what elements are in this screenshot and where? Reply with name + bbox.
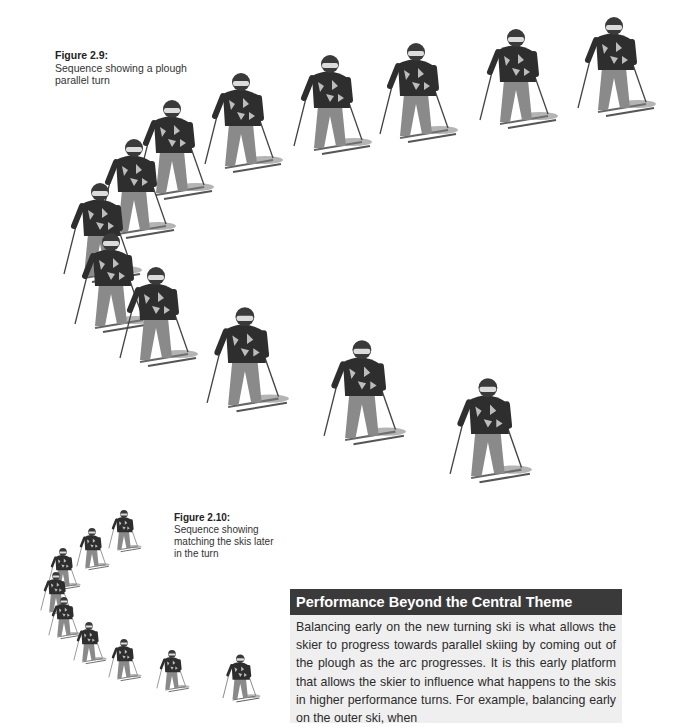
skier-photo bbox=[322, 335, 406, 451]
figure-2-10-caption: Figure 2.10: Sequence showing matching t… bbox=[174, 512, 274, 560]
figure-description: Sequence showing matching the skis later… bbox=[174, 524, 274, 560]
performance-sidebar-box: Performance Beyond the Central Theme Bal… bbox=[290, 589, 622, 723]
figure-label: Figure 2.10: bbox=[174, 512, 274, 524]
skier-photo bbox=[292, 50, 372, 160]
figure-label: Figure 2.9: bbox=[55, 49, 215, 62]
sidebar-body-text: Balancing early on the new turning ski i… bbox=[290, 615, 622, 727]
skier-photo bbox=[448, 373, 532, 489]
skier-photo bbox=[478, 24, 558, 134]
skier-photo bbox=[222, 652, 260, 705]
figure-2-9-caption: Figure 2.9: Sequence showing a plough pa… bbox=[55, 49, 215, 87]
skier-photo bbox=[576, 12, 656, 122]
skier-photo bbox=[205, 302, 289, 418]
skier-photo bbox=[203, 68, 283, 178]
skier-photo bbox=[76, 526, 110, 572]
skier-photo bbox=[156, 648, 190, 694]
skier-photo bbox=[73, 620, 107, 666]
skier-photo bbox=[108, 637, 142, 683]
skier-photo bbox=[378, 38, 458, 148]
skier-photo bbox=[108, 508, 142, 554]
figure-description: Sequence showing a plough parallel turn bbox=[55, 62, 215, 87]
sidebar-heading: Performance Beyond the Central Theme bbox=[290, 589, 622, 615]
skier-photo bbox=[118, 262, 198, 372]
